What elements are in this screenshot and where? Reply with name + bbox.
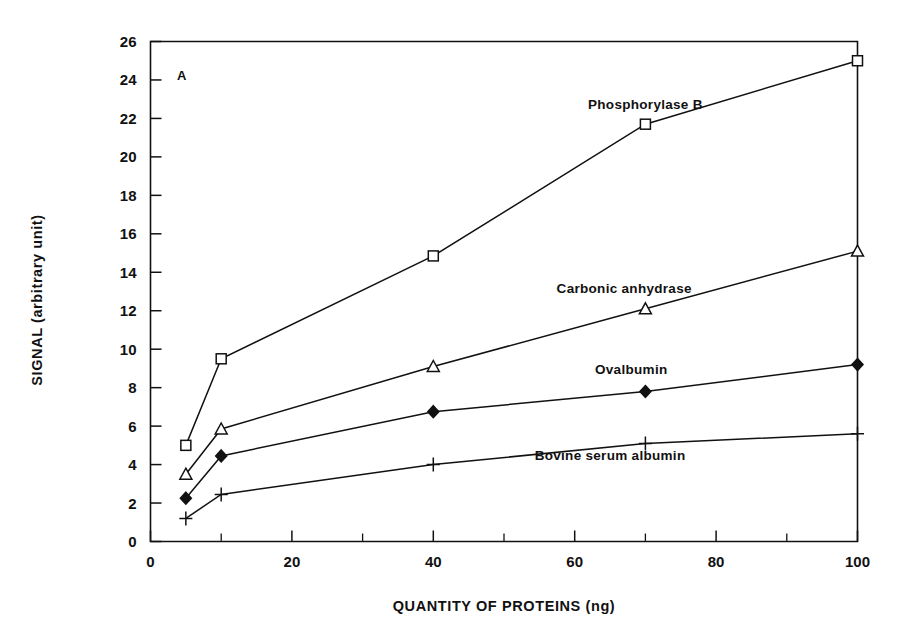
series-phosphorylase-b <box>181 56 863 451</box>
y-tick-label: 20 <box>120 148 137 165</box>
y-tick-label: 16 <box>120 225 137 242</box>
data-point-marker-open-triangle <box>852 245 864 256</box>
data-series-group <box>179 56 864 526</box>
x-tick-label: 20 <box>284 553 301 570</box>
x-axis-ticks <box>151 531 858 542</box>
y-tick-label: 2 <box>128 495 136 512</box>
data-point-marker-plus <box>215 487 228 501</box>
data-point-marker-open-square <box>853 56 863 66</box>
y-tick-label: 8 <box>128 379 136 396</box>
x-tick-label: 40 <box>425 553 442 570</box>
x-tick-label: 0 <box>146 553 154 570</box>
plot-frame <box>151 42 858 542</box>
series-line <box>186 251 858 474</box>
series-ovalbumin <box>180 359 863 505</box>
series-line <box>186 365 858 499</box>
y-tick-label: 6 <box>128 418 136 435</box>
data-point-marker-filled-diamond <box>640 386 651 398</box>
y-tick-label: 14 <box>120 264 137 281</box>
series-label-ovalbumin: Ovalbumin <box>595 362 667 377</box>
y-tick-label: 10 <box>120 341 137 358</box>
data-point-marker-open-square <box>181 440 191 450</box>
y-tick-label: 24 <box>120 71 137 88</box>
y-tick-label: 4 <box>128 456 137 473</box>
series-annotation-labels: Phosphorylase BCarbonic anhydraseOvalbum… <box>535 97 703 463</box>
y-tick-label: 12 <box>120 302 137 319</box>
series-bovine-serum-albumin <box>179 427 864 526</box>
x-tick-label: 60 <box>566 553 583 570</box>
panel-label: A <box>177 68 187 83</box>
data-point-marker-open-square <box>640 119 650 129</box>
data-point-marker-plus <box>427 458 440 472</box>
figure-panel-a: 020406080100 02468101214161820222426 Pho… <box>0 0 904 638</box>
y-axis-ticks <box>151 42 162 542</box>
data-point-marker-plus <box>851 427 864 441</box>
series-carbonic-anhydrase <box>180 245 864 479</box>
x-tick-label: 100 <box>845 553 870 570</box>
y-tick-label: 22 <box>120 110 137 127</box>
y-axis-tick-labels: 02468101214161820222426 <box>120 33 137 550</box>
series-label-bovine-serum-albumin: Bovine serum albumin <box>535 448 686 463</box>
x-axis-tick-labels: 020406080100 <box>146 553 870 570</box>
series-line <box>186 61 858 446</box>
series-line <box>186 434 858 519</box>
x-tick-label: 80 <box>708 553 725 570</box>
series-label-phosphorylase-b: Phosphorylase B <box>588 97 703 112</box>
signal-vs-protein-quantity-chart: 020406080100 02468101214161820222426 Pho… <box>0 0 904 638</box>
x-axis-title: QUANTITY OF PROTEINS (ng) <box>393 598 616 614</box>
data-point-marker-open-square <box>428 251 438 261</box>
data-point-marker-filled-diamond <box>428 406 439 418</box>
data-point-marker-filled-diamond <box>852 359 863 371</box>
data-point-marker-plus <box>179 511 192 525</box>
series-label-carbonic-anhydrase: Carbonic anhydrase <box>557 281 692 296</box>
data-point-marker-open-square <box>216 354 226 364</box>
y-tick-label: 18 <box>120 187 137 204</box>
y-tick-label: 26 <box>120 33 137 50</box>
y-axis-title: SIGNAL (arbitrary unit) <box>29 214 45 385</box>
y-tick-label: 0 <box>128 533 136 550</box>
